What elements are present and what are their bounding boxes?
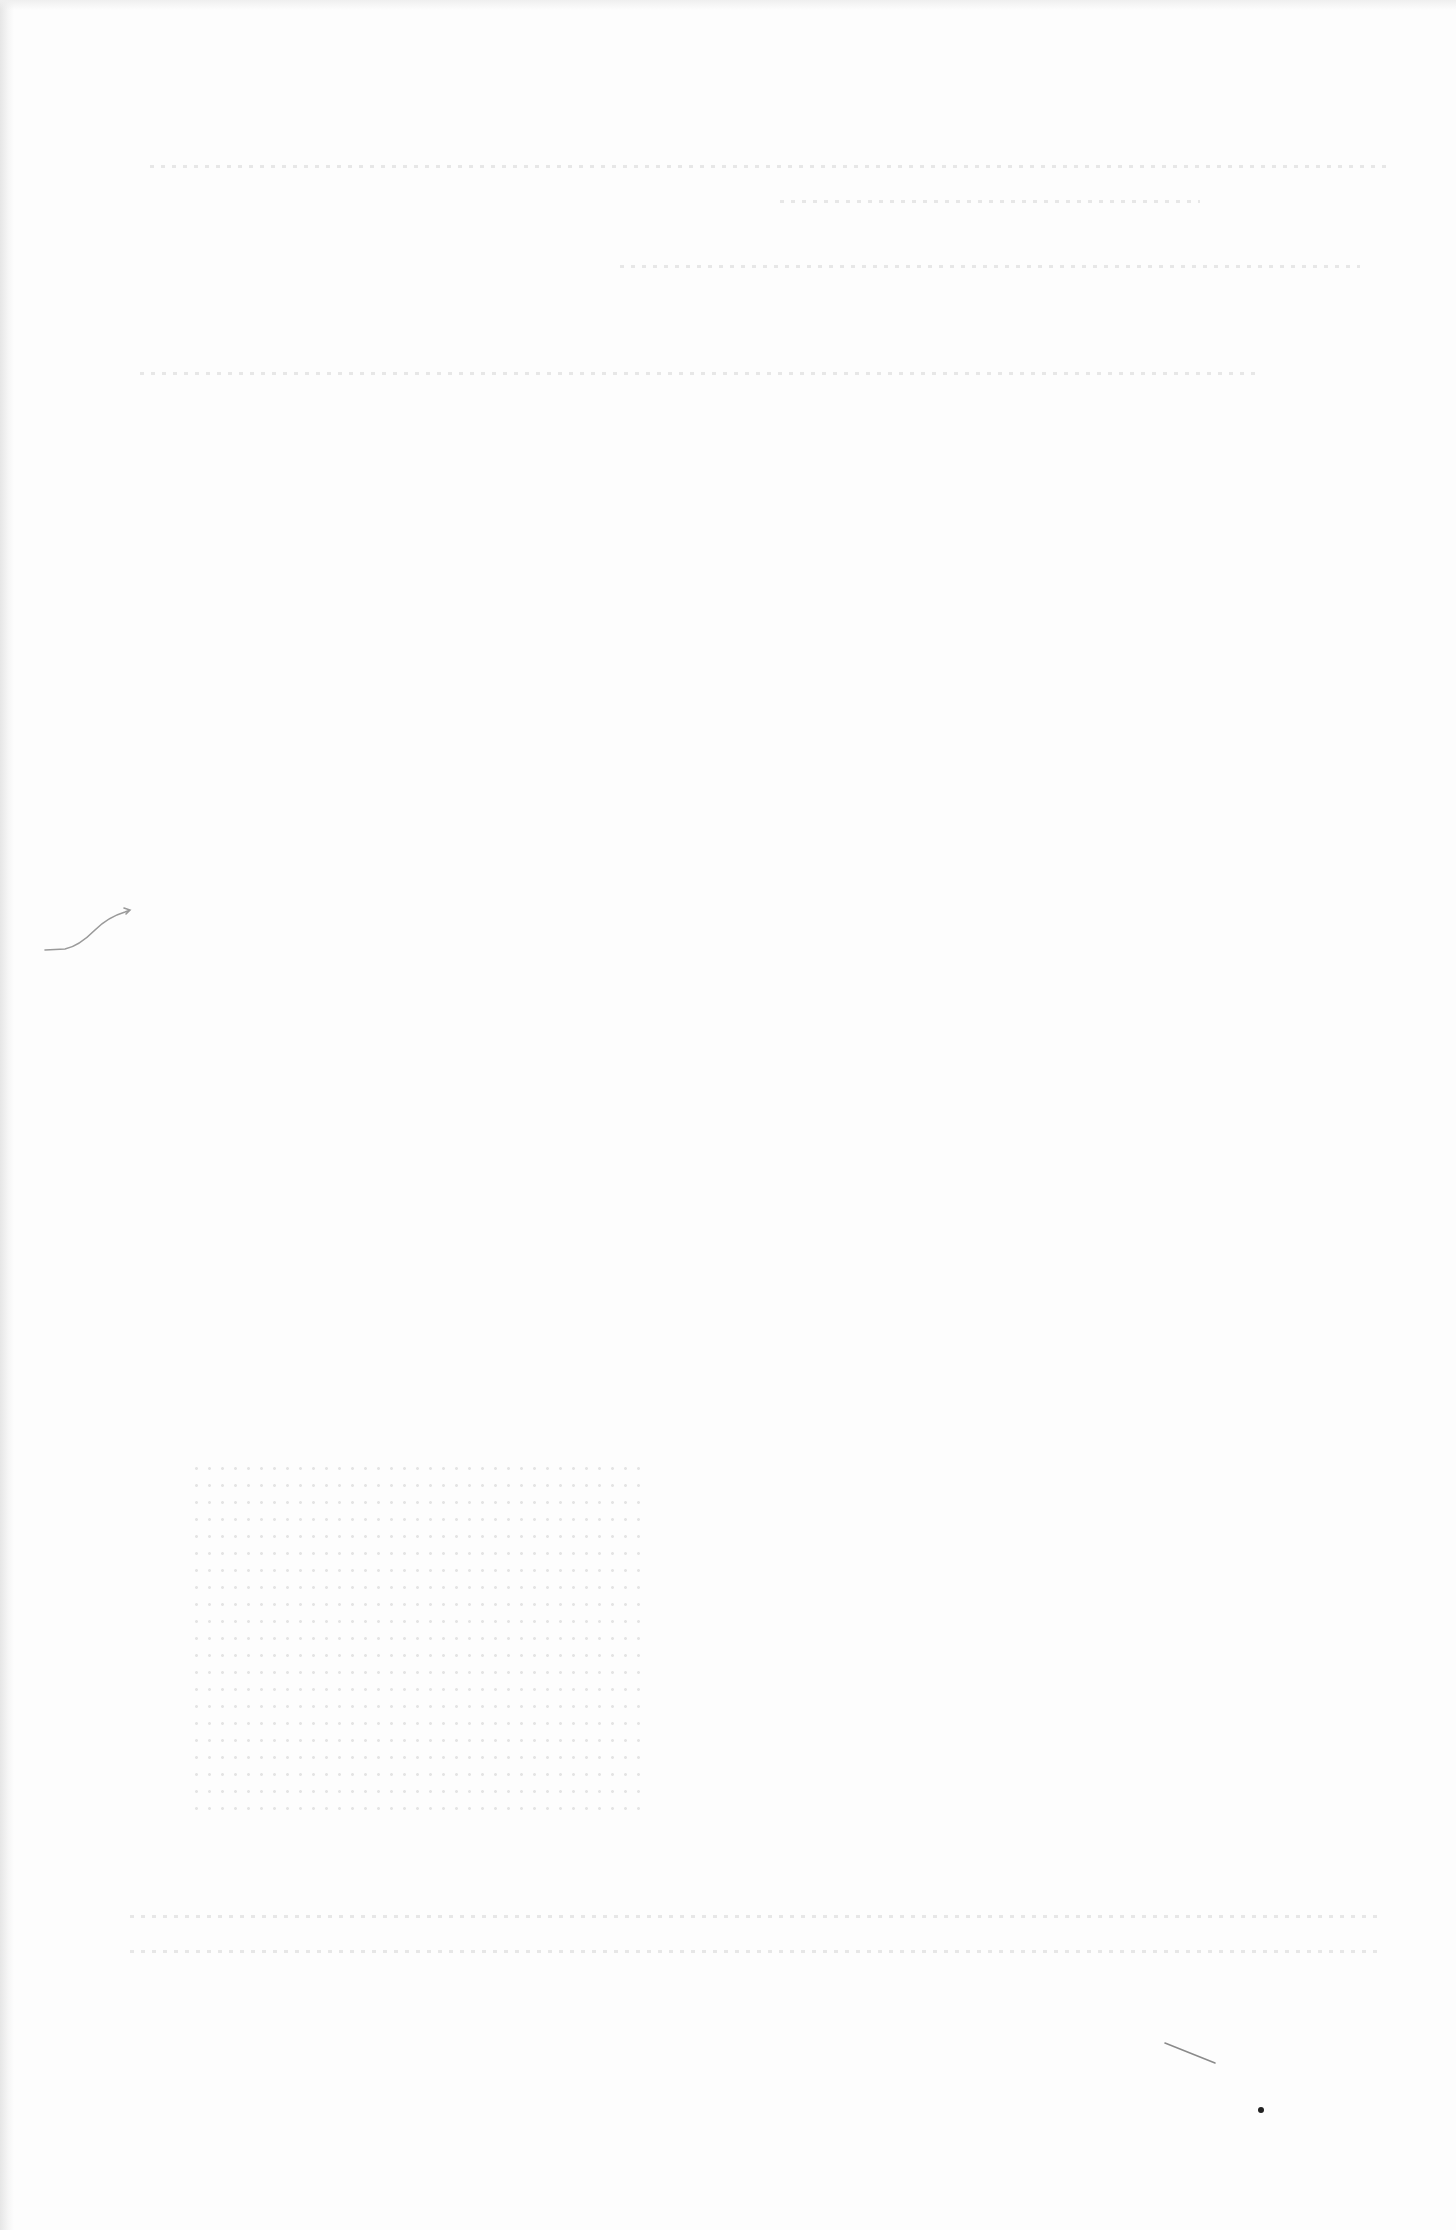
bleed-through-line [130, 1915, 1380, 1918]
page-edge-shadow [0, 0, 14, 2230]
ink-dot-mark [1255, 2104, 1267, 2116]
bleed-through-line [140, 372, 1260, 375]
bleed-through-block [190, 1460, 640, 1820]
blank-page [0, 0, 1456, 2230]
pencil-squiggle-mark [40, 900, 140, 960]
bleed-through-line [150, 165, 1390, 168]
bleed-through-line [130, 1950, 1380, 1953]
stray-stroke-mark [1160, 2035, 1230, 2075]
bleed-through-line [780, 200, 1200, 203]
bleed-through-line [620, 265, 1360, 268]
page-top-shadow [0, 0, 1456, 10]
